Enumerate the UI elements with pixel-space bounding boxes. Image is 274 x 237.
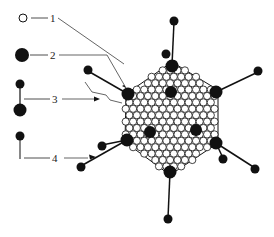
legend: 1 2 3 4	[14, 12, 127, 164]
diagram-canvas: 1 2 3 4	[0, 0, 274, 237]
hexon-spheres	[122, 60, 218, 176]
legend-filled-circle-icon	[15, 48, 29, 62]
legend-open-circle-icon	[19, 14, 27, 22]
legend-label-3: 3	[52, 93, 58, 105]
legend-label-1: 1	[50, 12, 56, 24]
adenovirus-diagram: 1 2 3 4	[0, 0, 274, 237]
legend-label-4: 4	[52, 152, 58, 164]
capsid	[122, 60, 218, 176]
legend-fiber-large-knob-icon	[14, 104, 27, 117]
legend-fiber-small-knob-icon	[16, 80, 25, 89]
legend-label-2: 2	[50, 49, 56, 61]
